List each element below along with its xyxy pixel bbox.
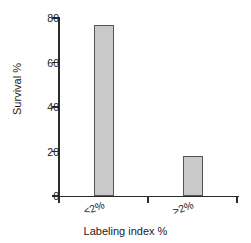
x-axis-tick [147,196,149,203]
x-category-label: >2% [170,198,194,217]
x-axis-title: Labeling index % [0,225,251,237]
y-axis-title: Survival % [8,0,26,178]
bar-chart-figure: 020406080 <2%>2% Survival % Labeling ind… [0,0,251,243]
bar [94,25,114,196]
x-category-label: <2% [81,198,105,217]
x-axis-tick [236,196,238,203]
bar [183,156,203,196]
x-axis-tick [58,196,60,203]
plot-area [59,18,237,196]
y-axis-tick-label: 0 [13,191,59,201]
